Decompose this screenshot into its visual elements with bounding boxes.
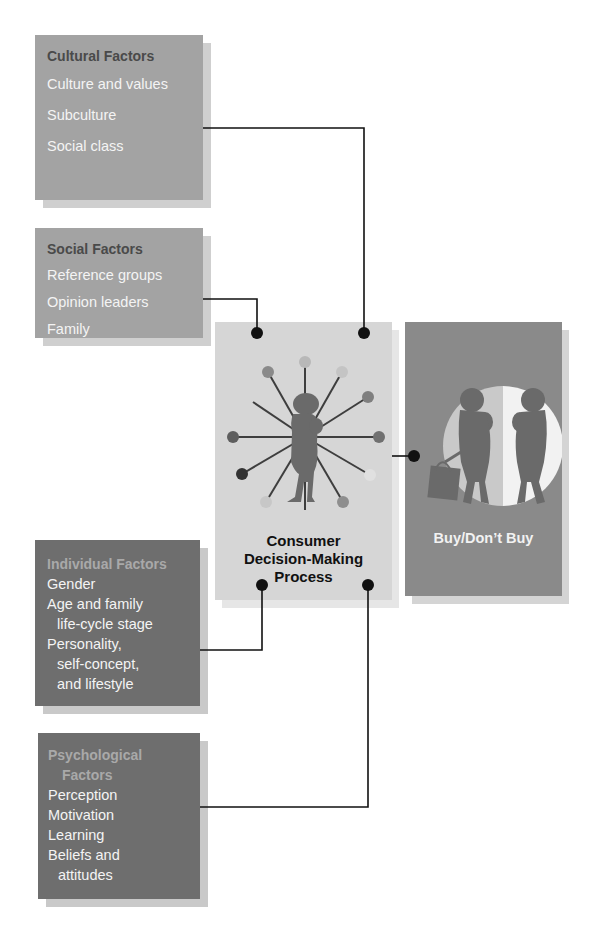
connector-dot	[256, 579, 268, 591]
connector-dot	[358, 327, 370, 339]
connector-dot	[408, 450, 420, 462]
connector-dot	[251, 327, 263, 339]
connector-dot	[362, 579, 374, 591]
connector-lines	[0, 0, 598, 933]
